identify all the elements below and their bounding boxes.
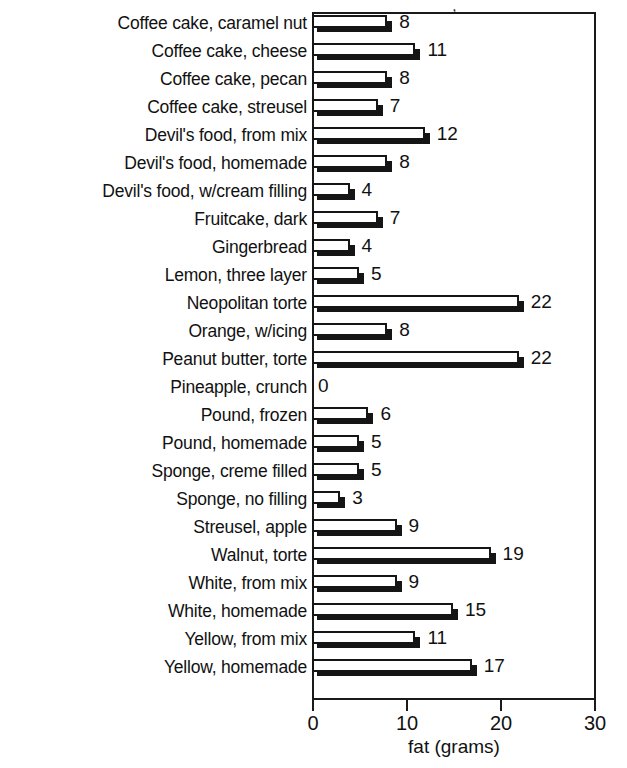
category-label: Devil's food, w/cream filling — [0, 181, 307, 201]
x-axis-tick — [406, 700, 408, 711]
category-label: Pineapple, crunch — [0, 377, 307, 397]
bar-value-label: 8 — [399, 12, 410, 32]
category-label: Yellow, homemade — [0, 657, 307, 677]
category-label: Neopolitan torte — [0, 293, 307, 313]
category-label: Devil's food, from mix — [0, 125, 307, 145]
category-label: White, homemade — [0, 601, 307, 621]
category-label: Peanut butter, torte — [0, 349, 307, 369]
bar-chart: , Coffee cake, caramel nutCoffee cake, c… — [0, 0, 627, 768]
bar-face — [312, 547, 491, 560]
bar-value-label: 9 — [409, 516, 420, 536]
category-label: Pound, homemade — [0, 433, 307, 453]
bar-value-label: 5 — [371, 460, 382, 480]
bar-face — [312, 323, 387, 336]
category-label: Coffee cake, cheese — [0, 41, 307, 61]
category-label: Coffee cake, streusel — [0, 97, 307, 117]
category-label: Devil's food, homemade — [0, 153, 307, 173]
category-axis-labels: Coffee cake, caramel nutCoffee cake, che… — [0, 0, 307, 700]
x-axis-tick-label: 10 — [396, 712, 418, 734]
x-axis-tick — [500, 700, 502, 711]
category-label: White, from mix — [0, 573, 307, 593]
bar-value-label: 8 — [399, 152, 410, 172]
bar-face — [312, 43, 415, 56]
category-label: Streusel, apple — [0, 517, 307, 537]
category-label: Fruitcake, dark — [0, 209, 307, 229]
bar-value-label: 4 — [362, 236, 373, 256]
x-axis-tick-label: 20 — [490, 712, 512, 734]
bar-face — [312, 15, 387, 28]
category-label: Coffee cake, caramel nut — [0, 13, 307, 33]
bar-face — [312, 351, 519, 364]
bar-value-label: 8 — [399, 68, 410, 88]
bar-value-label: 6 — [380, 404, 391, 424]
bar-face — [312, 603, 453, 616]
bar-face — [312, 295, 519, 308]
bar-value-label: 4 — [362, 180, 373, 200]
bar-face — [312, 463, 359, 476]
bar-value-label: 22 — [531, 292, 552, 312]
bar-value-label: 0 — [318, 376, 329, 396]
bar-face — [312, 407, 368, 420]
x-axis-tick-label: 30 — [584, 712, 606, 734]
bar-value-label: 12 — [437, 124, 458, 144]
bar-value-label: 5 — [371, 432, 382, 452]
bar-value-label: 8 — [399, 320, 410, 340]
bar-value-label: 22 — [531, 348, 552, 368]
bar-value-label: 11 — [427, 40, 447, 60]
x-axis: 0102030 — [312, 700, 596, 740]
category-label: Coffee cake, pecan — [0, 69, 307, 89]
category-label: Yellow, from mix — [0, 629, 307, 649]
x-axis-tick-label: 0 — [307, 712, 318, 734]
bar-face — [312, 71, 387, 84]
category-label: Gingerbread — [0, 237, 307, 257]
bar-face — [312, 127, 425, 140]
bar-face — [312, 631, 415, 644]
bars-layer: 81187128474522822065539199151117 — [312, 12, 596, 700]
bar-face — [312, 183, 350, 196]
category-label: Pound, frozen — [0, 405, 307, 425]
category-label: Sponge, no filling — [0, 489, 307, 509]
bar-value-label: 11 — [427, 628, 447, 648]
category-label: Lemon, three layer — [0, 265, 307, 285]
bar-value-label: 3 — [352, 488, 363, 508]
bar-face — [312, 211, 378, 224]
bar-face — [312, 491, 340, 504]
bar-face — [312, 239, 350, 252]
bar-value-label: 19 — [503, 544, 524, 564]
bar-face — [312, 519, 397, 532]
category-label: Walnut, torte — [0, 545, 307, 565]
bar-face — [312, 155, 387, 168]
category-label: Sponge, creme filled — [0, 461, 307, 481]
bar-value-label: 7 — [390, 96, 401, 116]
bar-value-label: 5 — [371, 264, 382, 284]
bar-value-label: 9 — [409, 572, 420, 592]
bar-face — [312, 575, 397, 588]
bar-face — [312, 435, 359, 448]
bar-face — [312, 267, 359, 280]
x-axis-tick — [594, 700, 596, 711]
bar-value-label: 7 — [390, 208, 401, 228]
bar-value-label: 17 — [484, 656, 505, 676]
x-axis-tick — [312, 700, 314, 711]
bar-face — [312, 99, 378, 112]
bar-face — [312, 659, 472, 672]
category-label: Orange, w/icing — [0, 321, 307, 341]
x-axis-title: fat (grams) — [312, 736, 596, 758]
bar-value-label: 15 — [465, 600, 486, 620]
